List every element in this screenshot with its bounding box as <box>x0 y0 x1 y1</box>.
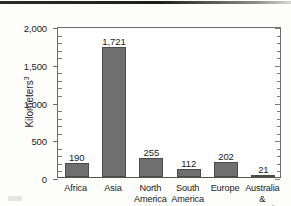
y-tick-minor <box>58 149 62 150</box>
y-tick-right <box>275 104 280 105</box>
y-tick-right <box>275 28 280 29</box>
bar-value-label: 112 <box>181 159 196 169</box>
y-tick-right <box>277 119 281 120</box>
y-tick-minor <box>58 111 62 112</box>
bar-value-label: 190 <box>69 153 85 163</box>
y-tick-minor <box>58 126 62 127</box>
bar <box>65 163 89 177</box>
y-tick-major: 0 <box>53 179 58 180</box>
bar <box>102 47 126 177</box>
y-tick-label: 1,000 <box>24 100 47 110</box>
plot-area: 05001,0001,5002,000 1901,72125511220221 <box>57 27 281 178</box>
y-tick-label: 2,000 <box>24 24 47 34</box>
bar <box>139 158 163 177</box>
y-tick-minor <box>58 36 62 37</box>
x-axis-category-label: Australia & Oceania <box>245 183 279 206</box>
page-top-rule <box>0 1 291 4</box>
y-tick-minor <box>58 171 62 172</box>
y-tick-right <box>277 134 281 135</box>
y-tick-right <box>275 141 280 142</box>
y-tick-right <box>277 43 281 44</box>
y-tick-right <box>277 81 281 82</box>
bar-value-label: 255 <box>144 148 160 158</box>
bar <box>214 162 238 177</box>
bar <box>177 169 201 177</box>
scanned-page: Kilometers3 05001,0001,5002,000 1901,721… <box>0 0 291 206</box>
bar-chart-figure: Kilometers3 05001,0001,5002,000 1901,721… <box>0 6 291 206</box>
y-tick-label: 1,500 <box>24 62 47 72</box>
x-axis-category-label: Africa <box>64 183 87 194</box>
y-tick-major: 2,000 <box>53 28 58 29</box>
y-tick-minor <box>58 119 62 120</box>
y-tick-right <box>275 179 280 180</box>
y-tick-label: 0 <box>42 175 47 185</box>
y-tick-minor <box>58 58 62 59</box>
y-tick-right <box>277 149 281 150</box>
y-tick-minor <box>58 88 62 89</box>
y-tick-right <box>277 88 281 89</box>
bar-value-label: 1,721 <box>102 37 125 47</box>
y-tick-right <box>277 111 281 112</box>
x-axis-category-label: North America <box>134 183 167 204</box>
y-tick-label: 500 <box>31 138 47 148</box>
y-tick-right <box>277 156 281 157</box>
y-tick-major: 500 <box>53 141 58 142</box>
bar <box>251 175 275 177</box>
y-tick-right <box>277 126 281 127</box>
y-tick-right <box>277 164 281 165</box>
y-tick-right <box>277 36 281 37</box>
y-tick-minor <box>58 51 62 52</box>
y-tick-minor <box>58 164 62 165</box>
y-tick-major: 1,500 <box>53 66 58 67</box>
y-tick-right <box>277 73 281 74</box>
bar-value-label: 21 <box>258 165 268 175</box>
y-tick-minor <box>58 134 62 135</box>
y-tick-minor <box>58 81 62 82</box>
y-tick-minor <box>58 43 62 44</box>
y-axis-title-exponent: 3 <box>23 76 30 80</box>
y-tick-right <box>277 58 281 59</box>
x-axis-category-label: South America <box>171 183 204 204</box>
y-tick-minor <box>58 156 62 157</box>
y-tick-right <box>275 66 280 67</box>
y-tick-minor <box>58 96 62 97</box>
y-tick-right <box>277 51 281 52</box>
x-axis-category-label: Asia <box>104 183 121 194</box>
y-tick-major: 1,000 <box>53 104 58 105</box>
y-tick-right <box>277 171 281 172</box>
bar-value-label: 202 <box>218 152 234 162</box>
y-tick-minor <box>58 73 62 74</box>
y-tick-right <box>277 96 281 97</box>
x-axis-category-label: Europe <box>211 183 240 194</box>
